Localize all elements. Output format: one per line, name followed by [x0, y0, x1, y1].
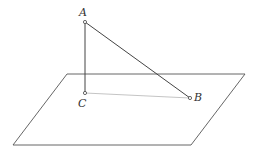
label-b: B [193, 91, 202, 104]
label-a: A [78, 6, 87, 19]
point-b [188, 96, 191, 99]
geometry-diagram: A C B [0, 0, 256, 153]
segment-cb [85, 93, 190, 98]
plane [13, 74, 245, 145]
segment-ab [85, 22, 190, 98]
point-c [83, 91, 86, 94]
point-a [83, 20, 86, 23]
label-c: C [78, 97, 87, 110]
